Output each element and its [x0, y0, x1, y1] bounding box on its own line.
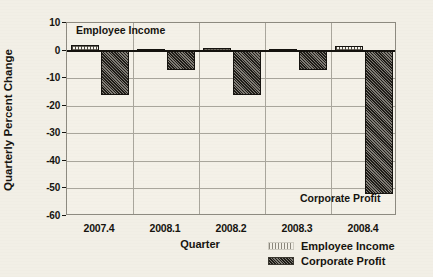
y-axis-tick-label: 0: [18, 44, 60, 55]
y-axis-tick-label: 10: [18, 17, 60, 28]
y-axis-title-wrapper: Quarterly Percent Change: [0, 20, 20, 220]
gridline: [67, 133, 395, 134]
legend-label-employee-income: Employee Income: [301, 240, 395, 252]
x-axis-tick-label: 2008.2: [216, 222, 247, 234]
zero-baseline: [67, 50, 395, 52]
category-separator: [331, 23, 332, 214]
bar-corporate-profit: [233, 51, 261, 95]
category-separator: [133, 23, 134, 214]
x-axis-tick-label: 2007.4: [84, 222, 115, 234]
y-axis-tick-mark: [62, 215, 66, 216]
category-separator: [265, 23, 266, 214]
y-axis-tick-label: -30: [18, 127, 60, 138]
y-axis-tick-label: -20: [18, 99, 60, 110]
legend-item-employee-income: Employee Income: [268, 238, 428, 253]
gridline: [67, 161, 395, 162]
y-axis-tick-label: -40: [18, 154, 60, 165]
y-axis-tick-label: -50: [18, 182, 60, 193]
y-axis-title: Quarterly Percent Change: [2, 49, 14, 191]
legend-label-corporate-profit: Corporate Profit: [301, 255, 385, 267]
legend-swatch-corporate-profit-icon: [268, 257, 294, 265]
annotation-employee-income: Employee Income: [76, 24, 165, 36]
x-axis-tick-label: 2008.1: [150, 222, 181, 234]
bar-corporate-profit: [299, 51, 327, 70]
x-axis-tick-label: 2008.4: [348, 222, 379, 234]
chart-page: Quarterly Percent Change 100-10-20-30-40…: [0, 0, 433, 277]
legend-swatch-employee-income-icon: [268, 242, 294, 250]
gridline: [67, 106, 395, 107]
category-separator: [199, 23, 200, 214]
gridline: [67, 188, 395, 189]
y-axis-tick-label: -10: [18, 72, 60, 83]
bar-corporate-profit: [101, 51, 129, 95]
chart-legend: Employee Income Corporate Profit: [268, 238, 428, 268]
annotation-corporate-profit: Corporate Profit: [300, 192, 381, 204]
x-axis-title: Quarter: [180, 238, 220, 250]
plot-area: [66, 22, 396, 215]
legend-item-corporate-profit: Corporate Profit: [268, 253, 428, 268]
bar-corporate-profit: [167, 51, 195, 70]
x-axis-tick-label: 2008.3: [282, 222, 313, 234]
y-axis-tick-label: -60: [18, 210, 60, 221]
bar-corporate-profit: [365, 51, 393, 194]
